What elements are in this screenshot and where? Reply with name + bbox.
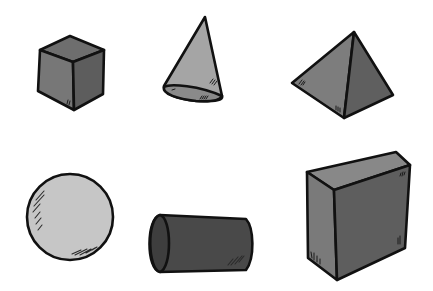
cube-shape — [38, 36, 104, 110]
sphere-shape — [27, 174, 113, 260]
cylinder-shape — [150, 215, 253, 272]
rectangular-prism-shape — [307, 152, 410, 280]
cone-shape — [164, 17, 222, 101]
pyramid-shape — [292, 32, 393, 118]
shapes-illustration: 3D geometric shapes — [0, 0, 433, 291]
